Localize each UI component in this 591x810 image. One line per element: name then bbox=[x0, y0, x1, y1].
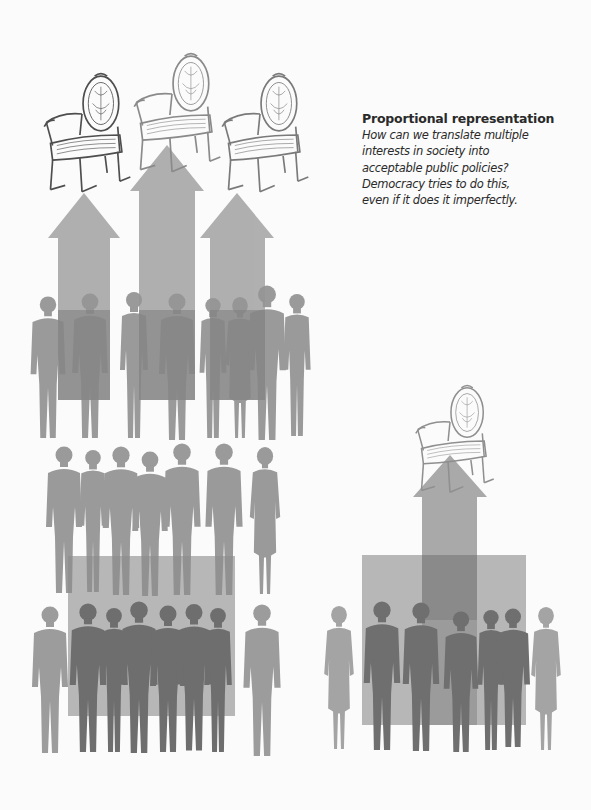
chair-icon bbox=[222, 74, 308, 192]
caption-line: even if it does it imperfectly. bbox=[362, 192, 582, 208]
chair-icon bbox=[134, 54, 220, 172]
left-panel bbox=[31, 54, 311, 756]
caption-line: How can we translate multiple bbox=[362, 127, 582, 143]
caption-line: interests in society into bbox=[362, 143, 582, 159]
caption-line: Democracy tries to do this, bbox=[362, 176, 582, 192]
caption: Proportional representation How can we t… bbox=[362, 111, 582, 208]
caption-line: acceptable public policies? bbox=[362, 160, 582, 176]
right-panel bbox=[324, 385, 561, 752]
chair-icon bbox=[44, 74, 130, 192]
caption-body: How can we translate multiple interests … bbox=[362, 127, 582, 208]
caption-title: Proportional representation bbox=[362, 111, 582, 127]
